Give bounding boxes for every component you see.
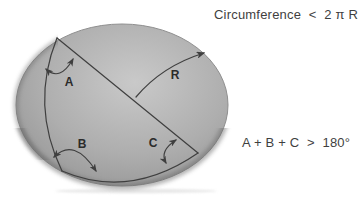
angle-b-label: B <box>78 137 87 151</box>
angle-sum-formula: A + B + C > 180° <box>242 135 350 150</box>
angle-a-label: A <box>65 75 74 89</box>
figure-canvas: A B C R Circumference < 2 π R A + B + C … <box>0 0 363 197</box>
radius-label: R <box>171 68 180 82</box>
sphere-diagram: A B C R <box>0 0 363 197</box>
angle-c-label: C <box>149 136 158 150</box>
ground-shadow <box>55 189 217 193</box>
circumference-formula: Circumference < 2 π R <box>214 7 358 22</box>
